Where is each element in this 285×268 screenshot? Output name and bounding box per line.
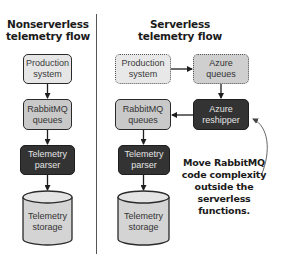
left-production-system-node: Production system [23,54,72,84]
right-production-system-node: Production system [115,54,171,84]
node-label: Production system [26,58,69,80]
left-rabbitmq-queues-node: RabbitMQ queues [23,99,72,130]
azure-reshipper-node: Azure reshipper [193,99,249,130]
node-label: Telemetry parser [28,149,67,171]
left-telemetry-storage-label: Telemetry storage [23,211,72,233]
node-label: RabbitMQ queues [27,104,68,126]
right-rabbitmq-queues-node: RabbitMQ queues [115,99,171,130]
left-telemetry-parser-node: Telemetry parser [20,145,75,175]
node-label: Azure reshipper [202,104,240,126]
right-telemetry-parser-node: Telemetry parser [118,145,170,175]
node-label: Telemetry parser [124,149,163,171]
node-label: Production system [121,58,164,80]
annotation-text: Move RabbitMQ code complexity outside th… [170,157,278,217]
node-label: RabbitMQ queues [123,104,164,126]
azure-queues-node: Azure queues [193,54,249,84]
right-telemetry-storage-label: Telemetry storage [118,211,169,233]
node-label: Azure queues [206,58,236,80]
